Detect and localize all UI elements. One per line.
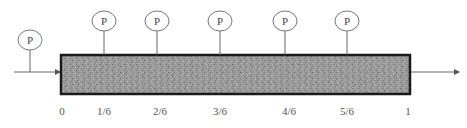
probe-label: P bbox=[101, 15, 107, 27]
pressure-probe-4-6: P bbox=[273, 11, 297, 55]
position-axis-labels: 0 1/6 2/6 3/6 4/6 5/6 1 bbox=[59, 105, 411, 117]
probe-label: P bbox=[344, 15, 350, 27]
axis-label-1-6: 1/6 bbox=[97, 105, 112, 117]
axis-label-1: 1 bbox=[405, 105, 411, 117]
axis-label-0: 0 bbox=[59, 105, 65, 117]
axis-label-3-6: 3/6 bbox=[213, 105, 228, 117]
pressure-probe-1-6: P bbox=[92, 11, 116, 55]
probe-label: P bbox=[217, 15, 223, 27]
pressure-probe-2-6: P bbox=[145, 11, 169, 55]
packed-bed bbox=[61, 55, 410, 94]
probe-label: P bbox=[282, 15, 288, 27]
packed-bed-diagram: P P P P P P 0 1/6 2/6 3/6 4/6 5/6 1 bbox=[0, 0, 467, 128]
axis-label-5-6: 5/6 bbox=[340, 105, 355, 117]
pressure-probe-5-6: P bbox=[335, 11, 359, 55]
axis-label-2-6: 2/6 bbox=[153, 105, 168, 117]
axis-label-4-6: 4/6 bbox=[282, 105, 297, 117]
inlet-pressure-probe: P bbox=[18, 30, 42, 72]
probe-label: P bbox=[154, 15, 160, 27]
probe-label: P bbox=[27, 34, 33, 46]
pressure-probe-3-6: P bbox=[208, 11, 232, 55]
